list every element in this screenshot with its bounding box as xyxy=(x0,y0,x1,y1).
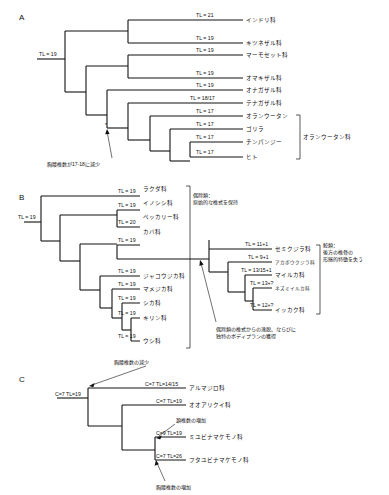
panel-b-tl-6: TL = 19 xyxy=(118,281,136,287)
panel-b-tl-4: TL = 19 xyxy=(118,237,136,243)
panel-b-taxon-4: カバ科 xyxy=(143,228,161,236)
panel-a-group-label: オランウータン科 xyxy=(303,133,351,141)
panel-c-taxon-3: ミユビナマケモノ科 xyxy=(189,433,243,441)
panel-b-taxon-2: イノシシ科 xyxy=(143,199,173,207)
panel-c-tl-2: C=7 TL=19 xyxy=(156,398,182,404)
panel-a-taxon-8: ゴリラ xyxy=(246,125,264,132)
panel-b-cet-tl-1: TL = 11+1 xyxy=(245,241,268,247)
panel-a-taxon-9: チンパンジー xyxy=(246,139,282,145)
panel-b-transition-note-line2: 独特のボディプランの獲得 xyxy=(216,333,276,340)
panel-b-cet-taxon-3: マイルカ科 xyxy=(275,271,305,279)
panel-c-tl-4: C=7 TL=26 xyxy=(156,453,182,459)
panel-b-cet-tl-4: TL = 13+? xyxy=(250,280,274,286)
panel-b-taxon-8: キリン科 xyxy=(143,314,167,322)
panel-b-cetacean-note-line1: 鯨類： xyxy=(323,242,338,249)
panel-b-cet-tl-2: TL = 9+1 xyxy=(248,254,269,260)
panel-a-taxon-1: インドリ科 xyxy=(246,16,276,24)
phylogenetic-figure: A TL = 19 TL = 21 TL = 19 TL = 19 TL = 1… xyxy=(0,0,389,495)
panel-c-top-arrow xyxy=(92,366,146,385)
panel-c-taxon-4: フタユビナマケモノ科 xyxy=(189,456,249,464)
panel-b-transition-note-line1: 偶蹄類の椎式からの逸脱、ならびに xyxy=(216,326,296,333)
panel-b-cet-taxon-5: イッカク科 xyxy=(275,306,305,314)
panel-b-cet-taxon-4: ネズミイルカ科 xyxy=(275,285,310,292)
panel-b-taxon-3: ペッカリー科 xyxy=(143,213,179,221)
panel-a-letter: A xyxy=(19,13,25,22)
panel-a-taxon-7: オランウータン xyxy=(246,112,288,119)
panel-b-taxon-1: ラクダ科 xyxy=(143,185,167,193)
panel-c-taxon-2: オオアリクイ科 xyxy=(189,401,231,409)
panel-c-letter: C xyxy=(19,375,25,384)
panel-b-cet-tl-5: TL = 12+? xyxy=(250,302,274,308)
panel-b-cetacean-bracket xyxy=(316,245,320,314)
panel-b-cet-taxon-2: アカボウクジラ科 xyxy=(275,259,315,266)
panel-b-tl-2: TL = 19 xyxy=(118,202,136,208)
panel-a-group-bracket xyxy=(296,115,300,159)
panel-b-tl-7: TL = 19 xyxy=(118,295,136,301)
panel-a-tl-6: TL = 18/17 xyxy=(190,95,215,101)
panel-b-taxon-7: シカ科 xyxy=(143,299,161,307)
panel-a-annotation: 胸腰椎数が17-18に減少 xyxy=(47,161,100,168)
panel-a-tl-10: TL = 17 xyxy=(196,149,214,155)
panel-b-artiodactyl-note-line1: 偶蹄類： xyxy=(193,192,213,199)
panel-b-tl-8: TL = 19 xyxy=(118,310,136,316)
panel-a-node-marker: * xyxy=(105,122,107,128)
panel-a-tl-2: TL = 19 xyxy=(196,35,214,41)
panel-c-taxon-1: アルマジロ科 xyxy=(189,384,225,392)
panel-b-tl-3: TL = 20 xyxy=(118,219,136,225)
panel-a-tl-3: TL = 19 xyxy=(196,47,214,53)
panel-a-tl-5: TL = 19 xyxy=(196,82,214,88)
panel-a-taxon-10: ヒト xyxy=(246,154,258,160)
panel-c-annotation-top: 胸腰椎数の減少 xyxy=(114,359,149,366)
panel-a-root-tl: TL = 19 xyxy=(39,51,57,57)
panel-c-annotation-bottom: 胸腰椎数の増加 xyxy=(156,484,191,491)
panel-a-taxon-5: オナガザル科 xyxy=(246,86,282,94)
panel-a-taxon-2: キツネザル科 xyxy=(246,39,282,47)
panel-b-transition-arrowhead xyxy=(199,260,203,266)
panel-b-cetacean-note-line2: 後方の椎骨の xyxy=(323,249,353,256)
panel-a-taxon-6: テナガザル科 xyxy=(246,99,282,107)
panel-b-taxon-9: ウシ科 xyxy=(143,337,161,345)
panel-a-tl-7: TL = 17 xyxy=(196,108,214,114)
panel-b-tl-5: TL = 19 xyxy=(118,268,136,274)
panel-c-root-tl: C=7 TL=19 xyxy=(55,391,81,397)
panel-c-tl-1: C=7 TL=14/15 xyxy=(145,381,178,387)
panel-b-letter: B xyxy=(19,193,24,202)
figure-svg: A TL = 19 TL = 21 TL = 19 TL = 19 TL = 1… xyxy=(0,0,389,495)
panel-c-top-arrowhead xyxy=(89,383,95,387)
panel-a-taxon-4: オマキザル科 xyxy=(246,74,282,82)
panel-b-root-tl: TL = 19 xyxy=(18,214,36,220)
panel-a-tl-4: TL = 19 xyxy=(196,70,214,76)
panel-b-cetacean-note-line3: 形態的特徴を失う xyxy=(323,256,363,263)
panel-a-taxon-3: マーモセット科 xyxy=(246,51,288,59)
panel-b-cet-tl-3: TL = 13/15+1 xyxy=(241,267,272,273)
panel-a-tl-8: TL = 17 xyxy=(196,121,214,127)
panel-b-artiodactyl-bracket xyxy=(186,186,190,348)
panel-b-tl-1: TL = 19 xyxy=(118,188,136,194)
panel-a-tl-1: TL = 21 xyxy=(196,12,214,18)
panel-b-artiodactyl-note-line2: 原始的な椎式を保持 xyxy=(193,199,238,206)
panel-c-annotation-mid: 頚椎数の増加 xyxy=(176,417,206,424)
panel-a-annotation-arrow xyxy=(107,131,112,158)
panel-b-taxon-6: マメジカ科 xyxy=(143,285,173,293)
panel-b-taxon-5: ジャコウジカ科 xyxy=(143,272,185,280)
panel-a-tl-9: TL = 17 xyxy=(196,134,214,140)
panel-c-bottom-arrow xyxy=(157,463,165,481)
panel-a-annotation-arrowhead xyxy=(105,129,109,134)
panel-b-tl-9: TL = 19 xyxy=(118,333,136,339)
panel-b-cet-taxon-1: セミクジラ科 xyxy=(275,245,311,253)
